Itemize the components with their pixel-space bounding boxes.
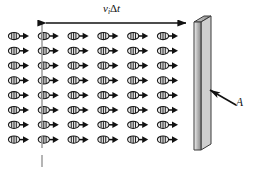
- particle-row: [8, 136, 178, 143]
- molecule-with-velocity-arrow: [8, 106, 29, 113]
- molecule-with-velocity-arrow: [128, 62, 149, 69]
- molecule-with-velocity-arrow: [98, 121, 119, 128]
- molecule-with-velocity-arrow: [8, 62, 29, 69]
- particle-row: [8, 62, 178, 69]
- molecule-with-velocity-arrow: [128, 77, 149, 84]
- diagram-canvas: [0, 0, 262, 173]
- molecule-with-velocity-arrow: [8, 92, 29, 99]
- molecule-with-velocity-arrow: [68, 47, 89, 54]
- particle-grid: [8, 32, 178, 143]
- molecule-with-velocity-arrow: [68, 32, 89, 39]
- molecule-with-velocity-arrow: [68, 62, 89, 69]
- molecule-with-velocity-arrow: [68, 136, 89, 143]
- molecule-with-velocity-arrow: [68, 121, 89, 128]
- time-symbol: t: [117, 2, 120, 14]
- molecule-with-velocity-arrow: [157, 62, 178, 69]
- molecule-with-velocity-arrow: [128, 106, 149, 113]
- molecule-with-velocity-arrow: [8, 121, 29, 128]
- molecule-with-velocity-arrow: [128, 121, 149, 128]
- wall-side-face: [201, 16, 211, 150]
- molecule-with-velocity-arrow: [98, 136, 119, 143]
- particle-row: [8, 77, 178, 84]
- molecule-with-velocity-arrow: [98, 62, 119, 69]
- molecule-with-velocity-arrow: [157, 106, 178, 113]
- molecule-with-velocity-arrow: [8, 47, 29, 54]
- molecule-with-velocity-arrow: [8, 77, 29, 84]
- molecule-with-velocity-arrow: [128, 136, 149, 143]
- particle-row: [8, 106, 178, 113]
- molecule-with-velocity-arrow: [98, 77, 119, 84]
- molecule-with-velocity-arrow: [128, 47, 149, 54]
- area-label: A: [236, 96, 243, 108]
- molecule-with-velocity-arrow: [98, 32, 119, 39]
- molecule-with-velocity-arrow: [68, 77, 89, 84]
- molecule-with-velocity-arrow: [68, 92, 89, 99]
- molecule-with-velocity-arrow: [128, 32, 149, 39]
- molecule-with-velocity-arrow: [157, 121, 178, 128]
- particle-row: [8, 47, 178, 54]
- velocity-time-label: viΔt: [103, 2, 120, 16]
- physics-diagram-figure: viΔt A: [0, 0, 262, 173]
- particle-row: [8, 32, 178, 39]
- molecule-with-velocity-arrow: [98, 106, 119, 113]
- molecule-with-velocity-arrow: [157, 136, 178, 143]
- molecule-with-velocity-arrow: [157, 77, 178, 84]
- molecule-with-velocity-arrow: [128, 92, 149, 99]
- molecule-with-velocity-arrow: [98, 92, 119, 99]
- molecule-with-velocity-arrow: [8, 32, 29, 39]
- molecule-with-velocity-arrow: [98, 47, 119, 54]
- molecule-with-velocity-arrow: [157, 92, 178, 99]
- delta-symbol: Δ: [110, 2, 117, 14]
- molecule-with-velocity-arrow: [157, 47, 178, 54]
- wall-front-face: [194, 22, 201, 150]
- particle-row: [8, 121, 178, 128]
- molecule-with-velocity-arrow: [8, 136, 29, 143]
- wall-slab: [194, 16, 211, 150]
- particle-row: [8, 92, 178, 99]
- molecule-with-velocity-arrow: [157, 32, 178, 39]
- molecule-with-velocity-arrow: [68, 106, 89, 113]
- area-leader-arrow: [210, 90, 236, 105]
